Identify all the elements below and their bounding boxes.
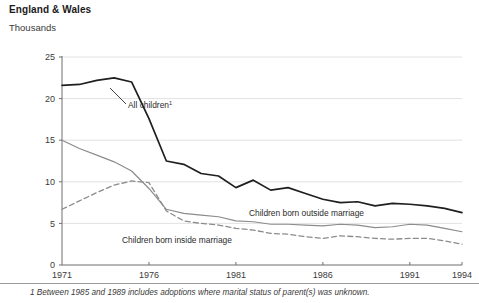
x-axis-tick-labels: 197119761981198619911994	[52, 270, 472, 280]
line-chart-plot: 0510152025 197119761981198619911994 All …	[0, 0, 479, 303]
annotation-leader-line	[110, 88, 126, 104]
x-tick-1994: 1994	[452, 270, 472, 280]
chart-footnote: 1 Between 1985 and 1989 includes adoptio…	[30, 288, 370, 297]
series-line-0	[62, 78, 462, 213]
y-tick-5: 5	[50, 219, 55, 229]
y-tick-0: 0	[50, 260, 55, 270]
x-tick-1981: 1981	[226, 270, 246, 280]
data-series-lines	[62, 78, 462, 244]
annotation-outside-marriage: Children born outside marriage	[249, 208, 364, 218]
footnote-divider	[0, 283, 479, 284]
x-tick-1986: 1986	[313, 270, 333, 280]
y-tick-20: 20	[45, 94, 55, 104]
axis-lines	[59, 56, 462, 265]
y-tick-25: 25	[45, 52, 55, 62]
annotation-inside-marriage: Children born inside marriage	[122, 235, 232, 245]
annotation-all-children: All children1	[128, 100, 172, 110]
x-tick-1991: 1991	[400, 270, 420, 280]
gridlines	[62, 57, 462, 223]
y-tick-15: 15	[45, 135, 55, 145]
x-tick-1971: 1971	[52, 270, 72, 280]
chart-container: England & Wales Thousands 0510152025 197…	[0, 0, 479, 303]
x-tick-1976: 1976	[139, 270, 159, 280]
y-axis-tick-labels: 0510152025	[45, 52, 55, 270]
y-tick-10: 10	[45, 177, 55, 187]
